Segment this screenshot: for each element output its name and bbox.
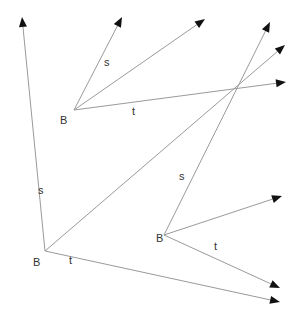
- arrowhead-icon: [276, 79, 286, 87]
- arrowhead-icon: [262, 22, 270, 33]
- vector-s-line: [23, 27, 45, 251]
- vector-t-line: [74, 83, 276, 110]
- origin-label: B: [156, 232, 163, 244]
- vector-label-t: t: [214, 240, 217, 252]
- vector-label-t: t: [132, 105, 135, 117]
- frame-top: stB: [60, 17, 286, 126]
- origin-label: B: [60, 114, 67, 126]
- arrowhead-icon: [269, 280, 280, 288]
- origin-label: B: [33, 256, 40, 268]
- arrowhead-icon: [269, 296, 280, 304]
- arrowhead-icon: [114, 17, 122, 28]
- arrowhead-icon: [195, 19, 205, 28]
- vector-label-t: t: [69, 254, 72, 266]
- frame-bottom-left: stB: [19, 17, 285, 304]
- arrowhead-icon: [275, 45, 285, 55]
- vector-label-s: s: [38, 184, 44, 196]
- vector-t-line: [164, 235, 271, 284]
- vector-diag-line: [45, 52, 277, 251]
- vector-diag-line: [74, 25, 197, 110]
- vector-diag-line: [164, 199, 273, 235]
- vector-s-line: [74, 26, 117, 110]
- vector-t-line: [45, 251, 270, 300]
- vector-s-line: [164, 31, 266, 235]
- arrowhead-icon: [271, 195, 282, 203]
- frame-bottom-right: stB: [156, 22, 282, 288]
- vector-label-s: s: [104, 56, 110, 68]
- vector-diagram: stBstBstB: [0, 0, 305, 323]
- arrowhead-icon: [19, 17, 27, 27]
- vector-label-s: s: [179, 170, 185, 182]
